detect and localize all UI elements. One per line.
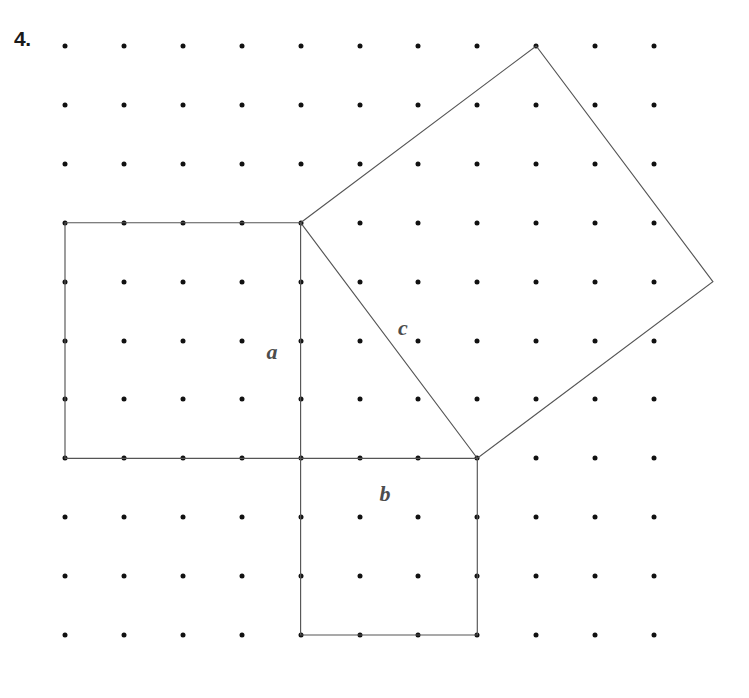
label-c: c	[398, 317, 408, 339]
square-on-hypotenuse-c	[301, 46, 713, 458]
square-on-leg-a	[65, 223, 301, 459]
diagram-canvas: 4. abc	[0, 0, 749, 698]
squares-figure	[0, 0, 749, 698]
label-b: b	[380, 483, 391, 505]
label-a: a	[267, 341, 278, 363]
